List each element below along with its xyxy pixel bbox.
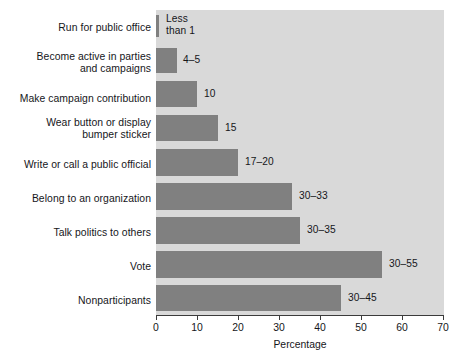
bar-nonparticipants bbox=[156, 285, 341, 311]
x-axis-tick-label: 70 bbox=[437, 322, 449, 334]
x-axis-tick bbox=[156, 315, 157, 320]
x-axis-tick-label: 10 bbox=[191, 322, 203, 334]
x-axis-tick bbox=[443, 315, 444, 320]
bar-belong-to-an-organization bbox=[156, 183, 292, 210]
category-label: Talk politics to others bbox=[0, 227, 151, 239]
bar-value-label: 4–5 bbox=[183, 54, 200, 66]
x-axis-tick bbox=[238, 315, 239, 320]
x-axis-tick-label: 50 bbox=[355, 322, 367, 334]
category-label: Wear button or display bumper sticker bbox=[0, 117, 151, 142]
x-axis-tick bbox=[402, 315, 403, 320]
bar-wear-button-or-display bbox=[156, 115, 218, 141]
bar-vote bbox=[156, 251, 382, 278]
x-axis-tick bbox=[361, 315, 362, 320]
x-axis-tick-label: 40 bbox=[314, 322, 326, 334]
bar-chart-figure: Run for public office Become active in p… bbox=[0, 0, 464, 364]
category-label: Run for public office bbox=[0, 22, 151, 34]
bar-value-label: 10 bbox=[204, 88, 216, 100]
bar-value-label: 17–20 bbox=[245, 156, 274, 168]
x-axis-tick-label: 0 bbox=[153, 322, 159, 334]
x-axis-tick bbox=[279, 315, 280, 320]
category-label: Become active in parties and campaigns bbox=[0, 51, 151, 76]
category-label: Vote bbox=[0, 261, 151, 273]
x-axis-tick bbox=[197, 315, 198, 320]
bar-run-for-public-office bbox=[156, 15, 159, 37]
bar-value-label: 30–35 bbox=[307, 224, 336, 236]
x-axis-line bbox=[156, 315, 444, 316]
plot-area: Less than 1 4–5 10 15 17–20 30–33 30–35 … bbox=[156, 10, 444, 315]
category-axis-labels: Run for public office Become active in p… bbox=[0, 10, 151, 315]
bar-value-label: Less than 1 bbox=[166, 13, 195, 37]
x-axis-tick-label: 60 bbox=[396, 322, 408, 334]
bar-value-label: 30–55 bbox=[389, 258, 418, 270]
bar-write-or-call-public-official bbox=[156, 149, 238, 176]
x-axis-title: Percentage bbox=[156, 339, 444, 351]
bar-value-label: 15 bbox=[225, 122, 237, 134]
x-axis-tick bbox=[320, 315, 321, 320]
category-label: Belong to an organization bbox=[0, 193, 151, 205]
bar-value-label: 30–33 bbox=[299, 190, 328, 202]
category-label: Make campaign contribution bbox=[0, 93, 151, 105]
category-label: Nonparticipants bbox=[0, 295, 151, 307]
bar-talk-politics-to-others bbox=[156, 217, 300, 244]
category-label: Write or call a public official bbox=[0, 159, 151, 171]
bar-make-campaign-contribution bbox=[156, 81, 197, 107]
bars-group: Less than 1 4–5 10 15 17–20 30–33 30–35 … bbox=[156, 10, 444, 315]
x-axis-tick-label: 20 bbox=[232, 322, 244, 334]
bar-become-active-in-parties bbox=[156, 48, 177, 73]
bar-value-label: 30–45 bbox=[348, 292, 377, 304]
x-axis-tick-label: 30 bbox=[273, 322, 285, 334]
